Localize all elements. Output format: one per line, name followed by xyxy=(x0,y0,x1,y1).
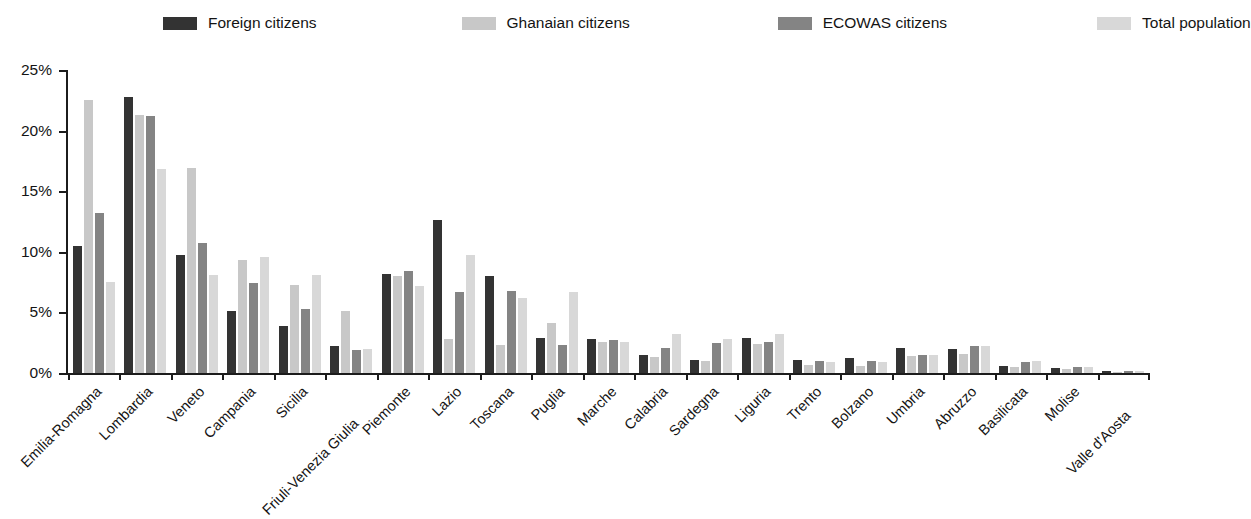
legend-swatch-icon xyxy=(462,17,496,30)
bar xyxy=(95,213,104,373)
bar xyxy=(569,292,578,373)
bar xyxy=(793,360,802,373)
bar-group xyxy=(274,70,325,373)
bar xyxy=(73,246,82,373)
bar xyxy=(198,243,207,373)
bar xyxy=(1010,367,1019,373)
y-axis-tick-label: 20% xyxy=(21,123,52,139)
bar xyxy=(1073,367,1082,373)
bar xyxy=(712,343,721,373)
legend-item-foreign-citizens: Foreign citizens xyxy=(163,15,317,31)
bar xyxy=(815,361,824,373)
bar xyxy=(507,291,516,373)
bar xyxy=(620,342,629,374)
bar xyxy=(433,220,442,373)
bar-group xyxy=(377,70,428,373)
bar xyxy=(918,355,927,373)
x-axis-label: Piemonte xyxy=(190,384,413,519)
bar xyxy=(330,346,339,373)
bar xyxy=(157,169,166,373)
y-axis-tick xyxy=(59,312,67,314)
bar xyxy=(1032,361,1041,373)
bar-group xyxy=(171,70,222,373)
bar-group xyxy=(737,70,788,373)
bar xyxy=(753,344,762,373)
y-axis-tick-label: 10% xyxy=(21,244,52,260)
bar xyxy=(907,356,916,373)
y-axis-tick xyxy=(59,131,67,133)
x-axis-labels: Emilia-RomagnaLombardiaVenetoCampaniaSic… xyxy=(0,374,1155,490)
bar xyxy=(587,339,596,373)
bar xyxy=(84,100,93,373)
bar xyxy=(382,274,391,373)
bar xyxy=(878,362,887,373)
bar xyxy=(279,326,288,373)
legend-swatch-icon xyxy=(163,17,197,30)
bar xyxy=(661,348,670,373)
bar xyxy=(341,311,350,373)
chart-legend: Foreign citizens Ghanaian citizens ECOWA… xyxy=(0,8,1155,38)
legend-item-ghanaian-citizens: Ghanaian citizens xyxy=(462,15,630,31)
bar xyxy=(1102,371,1111,373)
bar xyxy=(826,362,835,373)
y-axis-tick-label: 25% xyxy=(21,62,52,78)
bar-group xyxy=(892,70,943,373)
bar xyxy=(845,358,854,373)
legend-label: Total population xyxy=(1142,15,1251,31)
bar xyxy=(404,271,413,373)
bar xyxy=(415,286,424,373)
bar-group xyxy=(1098,70,1149,373)
bar xyxy=(959,354,968,373)
bar xyxy=(999,366,1008,373)
bar xyxy=(444,339,453,373)
bar xyxy=(867,361,876,373)
bar xyxy=(1084,367,1093,373)
bar xyxy=(124,97,133,373)
bar-group xyxy=(68,70,119,373)
bar xyxy=(1051,368,1060,373)
bar xyxy=(742,338,751,373)
bar xyxy=(1021,362,1030,373)
legend-label: Ghanaian citizens xyxy=(507,15,630,31)
bar xyxy=(775,334,784,373)
bar xyxy=(547,323,556,373)
bar-group xyxy=(789,70,840,373)
bar-group xyxy=(1046,70,1097,373)
bar xyxy=(455,292,464,373)
plot-area: 0%5%10%15%20%25% xyxy=(66,70,1149,374)
bar xyxy=(929,355,938,373)
bar xyxy=(856,366,865,373)
bar xyxy=(363,349,372,373)
bar xyxy=(312,275,321,373)
bar xyxy=(146,116,155,373)
bar xyxy=(249,283,258,373)
bar-groups xyxy=(68,70,1149,374)
bar xyxy=(393,276,402,373)
bar xyxy=(209,275,218,373)
legend-label: ECOWAS citizens xyxy=(823,15,947,31)
bar xyxy=(701,361,710,373)
legend-swatch-icon xyxy=(778,17,812,30)
y-axis-tick xyxy=(59,252,67,254)
bar xyxy=(690,360,699,373)
bar xyxy=(609,340,618,373)
bar xyxy=(764,342,773,374)
bar xyxy=(518,298,527,373)
bar xyxy=(948,349,957,373)
legend-label: Foreign citizens xyxy=(208,15,317,31)
bar xyxy=(352,350,361,373)
bar xyxy=(1135,371,1144,373)
bar xyxy=(723,339,732,373)
y-axis-tick-label: 5% xyxy=(30,304,52,320)
bar xyxy=(227,311,236,373)
bar xyxy=(896,348,905,373)
bar-group xyxy=(840,70,891,373)
legend-item-total-population: Total population xyxy=(1097,15,1251,31)
bar xyxy=(290,285,299,373)
bar-group xyxy=(686,70,737,373)
legend-swatch-icon xyxy=(1097,17,1131,30)
bar xyxy=(496,345,505,373)
bar-group xyxy=(222,70,273,373)
bar xyxy=(970,346,979,373)
